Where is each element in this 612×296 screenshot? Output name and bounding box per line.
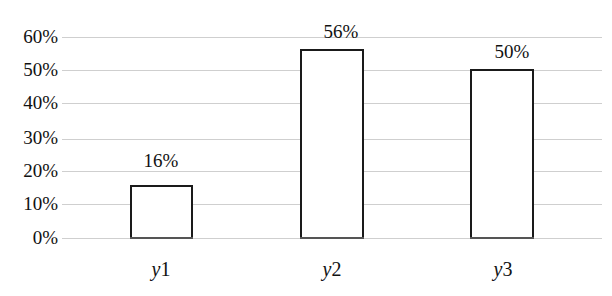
bar-baseline-y1	[130, 237, 193, 239]
bar-baseline-y3	[470, 237, 534, 239]
bar-y3	[470, 69, 534, 238]
bar-baseline-y2	[300, 237, 364, 239]
y-tick-60: 60%	[0, 27, 58, 47]
x-label-y1: y1	[121, 258, 201, 281]
bar-y1	[130, 185, 193, 238]
x-label-num: 3	[502, 258, 512, 280]
y-tick-50: 50%	[0, 60, 58, 80]
y-tick-10: 10%	[0, 194, 58, 214]
data-label-y1: 16%	[121, 151, 201, 171]
y-tick-0: 0%	[0, 228, 58, 248]
y-tick-40: 40%	[0, 93, 58, 113]
x-label-num: 1	[160, 258, 170, 280]
x-label-y2: y2	[292, 258, 372, 281]
bar-y2	[300, 49, 364, 238]
x-label-num: 2	[331, 258, 341, 280]
data-label-y3: 50%	[472, 42, 552, 62]
y-tick-30: 30%	[0, 128, 58, 148]
data-label-y2: 56%	[301, 22, 381, 42]
y-tick-20: 20%	[0, 161, 58, 181]
x-label-y3: y3	[463, 258, 543, 281]
